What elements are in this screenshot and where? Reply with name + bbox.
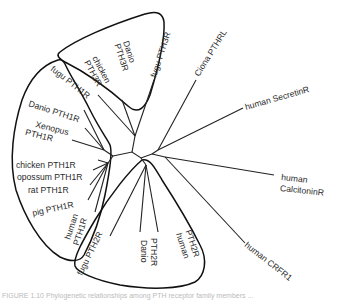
label-danio-pth2r: Danio PTH2R [139,238,159,266]
figure-caption: FIGURE 1.10 Phylogenetic relationships a… [2,292,337,301]
label-human-pth1r: human PTH1R [61,210,90,246]
label-ciona-pthrl: Ciona PTHRL [192,28,229,78]
label-chicken-pth1r: chicken PTH1R [16,160,76,170]
label-danio-pth1r: Danio PTH1R [27,98,81,124]
label-xenopus-pth1r: Xenopus PTH1R [24,117,72,147]
label-human-crfr1: human CRFR1 [243,240,294,283]
label-danio-pth3r: Danio PTH3R [113,40,140,73]
label-fugu-pth3r: fugu PTH3R [148,31,172,79]
phylogenetic-tree: Danio PTH3R chicken PTH3R fugu PTH3R Cio… [0,0,337,301]
label-human-calcitoninr: human CalcitoninR [280,172,326,197]
label-pig-pth1r: pig PTH1R [31,199,74,218]
label-rat-pth1r: rat PTH1R [28,185,69,195]
label-opossum-pth1r: opossum PTH1R [17,172,82,182]
label-human-secretinr: human SecretinR [244,84,311,112]
label-human-pth2r: human PTH2R [174,228,202,261]
label-chicken-pth3r: chicken PTH3R [82,54,114,91]
